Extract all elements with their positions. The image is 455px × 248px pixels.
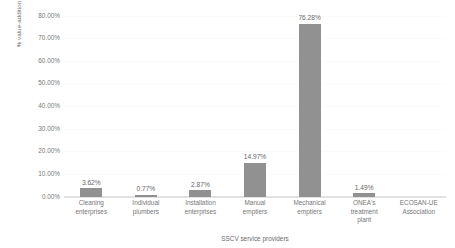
bar-value-label: 2.87% <box>173 180 228 189</box>
bar[interactable] <box>135 195 157 197</box>
x-axis-category-label: Mechanicalemptiers <box>282 199 337 233</box>
bar[interactable] <box>244 163 266 197</box>
bar-chart: % value-addition 80.00%70.00%60.00%50.00… <box>0 0 455 248</box>
x-axis-category-label-line: Manual <box>229 199 282 208</box>
x-axis-category-label: Manualemptiers <box>228 199 283 233</box>
x-axis-category-label-line: treatment <box>338 208 391 217</box>
bar[interactable] <box>80 188 102 196</box>
bar-group: 1.49% <box>337 16 392 197</box>
x-axis-title: SSCV service providers <box>64 234 446 243</box>
x-axis-category-label-line: Association <box>392 208 445 217</box>
x-axis-category-label: ONEA'streatmentplant <box>337 199 392 233</box>
x-axis-category-label-line: ONEA's <box>338 199 391 208</box>
x-axis-category-label-line: enterprises <box>65 208 118 217</box>
x-axis-category-label: ECOSAN-UEAssociation <box>391 199 446 233</box>
bar[interactable] <box>299 24 321 197</box>
x-axis-category-labels: CleaningenterprisesIndividualplumbersIns… <box>64 199 446 233</box>
bar-value-label: 3.62% <box>64 178 119 187</box>
y-axis-tick-label: 80.00% <box>22 12 60 20</box>
bar-group: 0.77% <box>119 16 174 197</box>
y-axis-tick-label: 70.00% <box>22 34 60 42</box>
bar[interactable] <box>353 193 375 196</box>
x-axis-category-label-line: plant <box>338 216 391 225</box>
bar-group: 2.87% <box>173 16 228 197</box>
bar-group <box>391 16 446 197</box>
x-axis-category-label: Installationenterprises <box>173 199 228 233</box>
y-axis-tick-label: 50.00% <box>22 79 60 87</box>
bar-series: 3.62%0.77%2.87%14.97%76.28%1.49% <box>64 16 446 197</box>
x-axis-category-label-line: enterprises <box>174 208 227 217</box>
y-axis-tick-label: 60.00% <box>22 57 60 65</box>
gridline <box>64 197 446 198</box>
bar-group: 14.97% <box>228 16 283 197</box>
x-axis-category-label-line: Mechanical <box>283 199 336 208</box>
bar-value-label: 76.28% <box>282 13 337 22</box>
x-axis-category-label-line: emptiers <box>283 208 336 217</box>
bar-group: 76.28% <box>282 16 337 197</box>
x-axis-category-label-line: emptiers <box>229 208 282 217</box>
plot-area: 3.62%0.77%2.87%14.97%76.28%1.49% <box>64 16 446 197</box>
x-axis-category-label: Cleaningenterprises <box>64 199 119 233</box>
y-axis-tick-label: 20.00% <box>22 147 60 155</box>
y-axis-tick-label: 0.00% <box>22 193 60 201</box>
bar-group: 3.62% <box>64 16 119 197</box>
bar-value-label: 1.49% <box>337 183 392 192</box>
bar-value-label: 0.77% <box>119 184 174 193</box>
y-axis-tick-label: 40.00% <box>22 102 60 110</box>
x-axis-category-label-line: Cleaning <box>65 199 118 208</box>
x-axis-category-label: Individualplumbers <box>119 199 174 233</box>
x-axis-category-label-line: ECOSAN-UE <box>392 199 445 208</box>
x-axis-category-label-line: plumbers <box>120 208 173 217</box>
bar[interactable] <box>189 190 211 196</box>
y-axis-tick-label: 10.00% <box>22 170 60 178</box>
x-axis-category-label-line: Installation <box>174 199 227 208</box>
x-axis-category-label-line: Individual <box>120 199 173 208</box>
y-axis-tick-label: 30.00% <box>22 125 60 133</box>
bar-value-label: 14.97% <box>228 152 283 161</box>
y-axis-tick-labels: 80.00%70.00%60.00%50.00%40.00%30.00%20.0… <box>22 12 60 202</box>
